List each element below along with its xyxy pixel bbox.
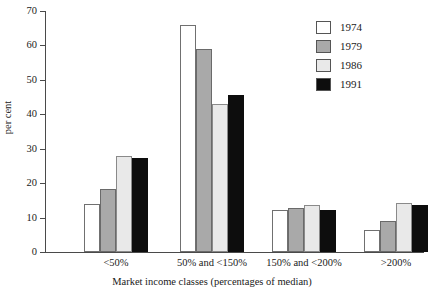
- y-axis-tick-label: 0: [0, 247, 37, 257]
- x-axis-title: Market income classes (percentages of me…: [0, 276, 424, 288]
- legend-item: 1979: [316, 38, 402, 57]
- bar-1991-1: [228, 95, 244, 252]
- legend-swatch: [316, 40, 331, 53]
- bar-1979-2: [288, 208, 304, 252]
- legend-swatch: [316, 78, 331, 91]
- bar-1991-2: [320, 210, 336, 252]
- y-axis-title: per cent: [2, 83, 13, 153]
- legend-label: 1979: [340, 39, 362, 53]
- y-axis-tick-label: 20: [0, 178, 37, 188]
- bar-1991-3: [412, 205, 428, 253]
- legend-item: 1974: [316, 19, 402, 38]
- bar-1986-1: [212, 104, 228, 252]
- legend-label: 1986: [340, 58, 362, 72]
- legend-item: 1991: [316, 76, 402, 95]
- bar-1986-2: [304, 205, 320, 253]
- y-axis-tick-label: 60: [0, 40, 37, 50]
- x-axis-line: [45, 252, 424, 253]
- bar-1986-3: [396, 203, 412, 252]
- bar-1974-1: [180, 25, 196, 252]
- legend-label: 1974: [340, 20, 362, 34]
- bar-1979-3: [380, 221, 396, 252]
- legend-swatch: [316, 21, 331, 34]
- bar-group: [84, 11, 148, 252]
- x-axis-category-label: >200%: [336, 257, 432, 269]
- legend-label: 1991: [340, 77, 362, 91]
- bar-1974-0: [84, 204, 100, 252]
- legend: 1974197919861991: [316, 19, 402, 95]
- y-axis-tick-label: 10: [0, 213, 37, 223]
- bar-1974-3: [364, 230, 380, 252]
- bar-1986-0: [116, 156, 132, 252]
- bar-1979-0: [100, 189, 116, 252]
- y-axis-tick-label: 70: [0, 6, 37, 16]
- legend-swatch: [316, 59, 331, 72]
- bar-1991-0: [132, 158, 148, 252]
- bar-1979-1: [196, 49, 212, 252]
- legend-item: 1986: [316, 57, 402, 76]
- bar-1974-2: [272, 210, 288, 252]
- bar-group: [180, 11, 244, 252]
